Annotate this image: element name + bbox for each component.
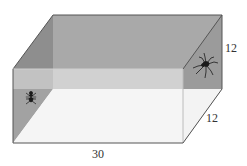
- label-height: 12: [225, 41, 237, 55]
- label-length: 30: [92, 147, 104, 161]
- label-width: 12: [206, 111, 218, 125]
- front-face: [13, 69, 183, 143]
- room-box-diagram: 30 12 12: [0, 0, 247, 166]
